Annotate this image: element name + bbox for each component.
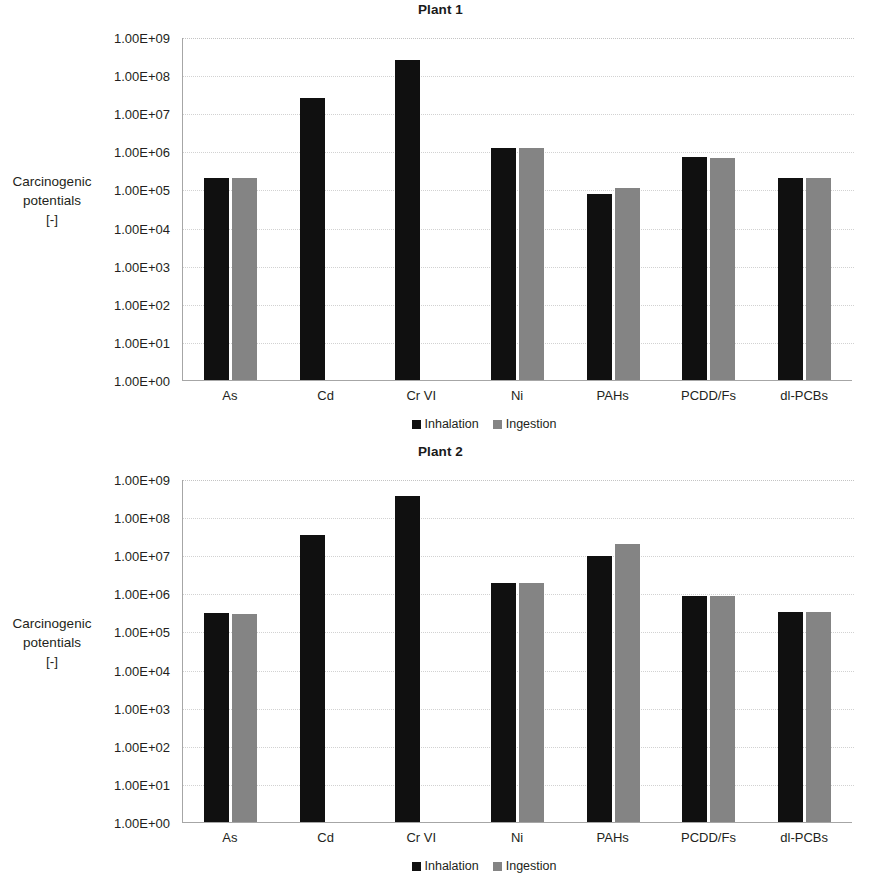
plot-area-wrapper: 1.00E+09 1.00E+08 1.00E+07 1.00E+06 1.00…	[104, 38, 864, 381]
bar-ingestion-pahs	[615, 544, 640, 822]
bar-group-bars	[279, 38, 375, 380]
bar-ingestion-pahs	[615, 188, 640, 380]
legend-swatch-icon	[412, 862, 421, 871]
legend-entry-ingestion: Ingestion	[493, 859, 557, 873]
bar-inhalation-cd	[300, 98, 325, 380]
bar-inhalation-dl-pcbs	[778, 612, 803, 822]
bar-group	[279, 480, 375, 822]
bar-inhalation-pahs	[587, 556, 612, 822]
bar-inhalation-pcdd-fs	[682, 596, 707, 822]
y-axis-tick-labels: 1.00E+09 1.00E+08 1.00E+07 1.00E+06 1.00…	[104, 38, 176, 381]
y-axis-title: Carcinogenic potentials [-]	[0, 172, 104, 229]
bar-ingestion-ni	[519, 583, 544, 822]
plot-area-wrapper: 1.00E+09 1.00E+08 1.00E+07 1.00E+06 1.00…	[104, 480, 864, 823]
y-tick-label: 1.00E+07	[114, 549, 170, 564]
chart-title: Plant 1	[0, 2, 881, 17]
y-tick-label: 1.00E+08	[114, 511, 170, 526]
y-tick-label: 1.00E+02	[114, 739, 170, 754]
y-tick-label: 1.00E+08	[114, 69, 170, 84]
bar-group	[661, 480, 757, 822]
bar-inhalation-pahs	[587, 194, 612, 380]
bar-group	[374, 480, 470, 822]
bar-inhalation-ni	[491, 583, 516, 822]
x-tick-label: PAHs	[565, 388, 661, 403]
bar-ingestion-pcdd-fs	[710, 158, 735, 380]
chart-plant-1: Plant 1 Carcinogenic potentials [-] 1.00…	[0, 0, 881, 442]
bar-group-bars	[374, 480, 470, 822]
y-axis-title-line-3: [-]	[0, 210, 104, 229]
x-tick-label: As	[182, 830, 278, 845]
bar-ingestion-pcdd-fs	[710, 596, 735, 822]
bar-group	[661, 38, 757, 380]
x-tick-label: Cr VI	[373, 830, 469, 845]
bar-ingestion-ni	[519, 148, 544, 380]
y-tick-label: 1.00E+05	[114, 183, 170, 198]
y-tick-label: 1.00E+04	[114, 663, 170, 678]
bar-group	[470, 38, 566, 380]
bar-groups	[183, 480, 852, 822]
legend-swatch-icon	[493, 862, 502, 871]
chart-plant-2: Plant 2 Carcinogenic potentials [-] 1.00…	[0, 442, 881, 884]
x-axis-tick-labels: As Cd Cr VI Ni PAHs PCDD/Fs dl-PCBs	[182, 388, 852, 403]
legend-entry-inhalation: Inhalation	[412, 859, 479, 873]
figure-page: Plant 1 Carcinogenic potentials [-] 1.00…	[0, 0, 881, 884]
bar-group-bars	[279, 480, 375, 822]
x-tick-label: Cd	[278, 388, 374, 403]
bar-groups	[183, 38, 852, 380]
x-tick-label: Cr VI	[373, 388, 469, 403]
bar-ingestion-as	[232, 178, 257, 380]
y-axis-title-line-1: Carcinogenic	[0, 614, 104, 633]
bar-inhalation-cr-vi	[395, 496, 420, 822]
y-tick-label: 1.00E+00	[114, 374, 170, 389]
y-tick-label: 1.00E+02	[114, 297, 170, 312]
chart-title: Plant 2	[0, 444, 881, 459]
y-axis-title-line-1: Carcinogenic	[0, 172, 104, 191]
y-tick-label: 1.00E+01	[114, 335, 170, 350]
y-axis-tick-labels: 1.00E+09 1.00E+08 1.00E+07 1.00E+06 1.00…	[104, 480, 176, 823]
bar-group	[183, 480, 279, 822]
bar-group	[183, 38, 279, 380]
bar-inhalation-ni	[491, 148, 516, 380]
y-axis-title: Carcinogenic potentials [-]	[0, 614, 104, 671]
plot-area	[182, 38, 852, 381]
x-axis-tick-labels: As Cd Cr VI Ni PAHs PCDD/Fs dl-PCBs	[182, 830, 852, 845]
y-axis-title-line-2: potentials	[0, 191, 104, 210]
x-tick-label: PAHs	[565, 830, 661, 845]
bar-group	[279, 38, 375, 380]
bar-group	[374, 38, 470, 380]
y-axis-title-line-2: potentials	[0, 633, 104, 652]
bar-inhalation-pcdd-fs	[682, 157, 707, 380]
y-tick-label: 1.00E+00	[114, 816, 170, 831]
legend-label: Ingestion	[506, 417, 557, 431]
x-tick-label: Ni	[469, 830, 565, 845]
legend-swatch-icon	[493, 420, 502, 429]
bar-group-bars	[661, 38, 757, 380]
x-tick-label: dl-PCBs	[756, 830, 852, 845]
bar-group-bars	[756, 38, 852, 380]
bar-group-bars	[565, 480, 661, 822]
y-tick-label: 1.00E+06	[114, 145, 170, 160]
bar-group-bars	[183, 38, 279, 380]
bar-group-bars	[565, 38, 661, 380]
x-tick-label: As	[182, 388, 278, 403]
bar-group-bars	[183, 480, 279, 822]
y-tick-label: 1.00E+03	[114, 259, 170, 274]
bar-group-bars	[470, 480, 566, 822]
bar-inhalation-cd	[300, 535, 325, 823]
y-tick-label: 1.00E+06	[114, 587, 170, 602]
bar-ingestion-as	[232, 614, 257, 822]
bar-inhalation-dl-pcbs	[778, 178, 803, 380]
chart-legend: Inhalation Ingestion	[104, 417, 864, 431]
bar-inhalation-as	[204, 613, 229, 822]
y-tick-label: 1.00E+05	[114, 625, 170, 640]
legend-label: Ingestion	[506, 859, 557, 873]
legend-label: Inhalation	[425, 417, 479, 431]
bar-group	[756, 38, 852, 380]
bar-ingestion-dl-pcbs	[806, 612, 831, 822]
bar-group	[470, 480, 566, 822]
bar-group-bars	[470, 38, 566, 380]
x-tick-label: Cd	[278, 830, 374, 845]
x-tick-label: PCDD/Fs	[661, 830, 757, 845]
y-axis-title-line-3: [-]	[0, 652, 104, 671]
y-tick-label: 1.00E+04	[114, 221, 170, 236]
